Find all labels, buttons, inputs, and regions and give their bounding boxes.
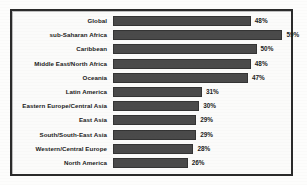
category-label: Middle East/North Africa [34,57,107,71]
bar-value-label: 29% [200,113,213,127]
category-label: Caribbean [76,42,107,56]
bar-track: 47% [113,71,289,85]
category-label: South/South-East Asia [39,128,107,142]
bar-track: 30% [113,99,289,113]
category-label: sub-Saharan Africa [50,28,107,42]
bar [113,115,196,125]
bar-value-label: 29% [200,128,213,142]
bar-track: 29% [113,113,289,127]
bar [113,44,257,54]
bar-value-label: 59% [286,28,299,42]
bar-track: 29% [113,128,289,142]
bar-track: 50% [113,42,289,56]
bar-track: 31% [113,85,289,99]
bar [113,101,199,111]
bar-value-label: 48% [255,14,268,28]
bar [113,59,251,69]
bar-track: 48% [113,57,289,71]
chart-frame: Global48%sub-Saharan Africa59%Caribbean5… [10,9,293,176]
bar-row: Latin America31% [12,85,291,99]
bar [113,158,188,168]
bar [113,30,282,40]
bar [113,87,202,97]
bar-value-label: 50% [261,42,274,56]
category-label: Western/Central Europe [36,142,107,156]
category-label: Eastern Europe/Central Asia [22,99,107,113]
bar-value-label: 26% [192,156,205,170]
category-label: Oceania [83,71,107,85]
bar-row: Eastern Europe/Central Asia30% [12,99,291,113]
bar-value-label: 31% [206,85,219,99]
bar [113,130,196,140]
bar-row: sub-Saharan Africa59% [12,28,291,42]
bar-row: Caribbean50% [12,42,291,56]
bar [113,73,248,83]
bar [113,16,251,26]
bar-value-label: 30% [203,99,216,113]
bar-row: Middle East/North Africa48% [12,57,291,71]
category-label: Latin America [66,85,107,99]
bar-value-label: 48% [255,57,268,71]
category-label: North America [64,156,107,170]
bar-value-label: 47% [252,71,265,85]
bar-row: Oceania47% [12,71,291,85]
bar-chart-figure: Global48%sub-Saharan Africa59%Caribbean5… [0,0,307,185]
category-label: Global [87,14,107,28]
bar-row: Western/Central Europe28% [12,142,291,156]
bar-row: South/South-East Asia29% [12,128,291,142]
bar-track: 59% [113,28,289,42]
bar-row: Global48% [12,14,291,28]
bar-row: East Asia29% [12,113,291,127]
category-label: East Asia [79,113,107,127]
plot-area: Global48%sub-Saharan Africa59%Caribbean5… [12,11,291,174]
bar-track: 28% [113,142,289,156]
bar [113,144,193,154]
bar-row: North America26% [12,156,291,170]
bar-track: 26% [113,156,289,170]
bar-value-label: 28% [197,142,210,156]
bar-track: 48% [113,14,289,28]
